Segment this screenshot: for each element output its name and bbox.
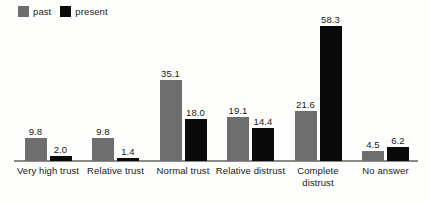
bar-group: 4.56.2 [362, 1, 410, 161]
bar-rect [387, 147, 409, 161]
bar-group: 19.114.4 [227, 1, 275, 161]
bar-group: 9.81.4 [92, 1, 140, 161]
bar-past[interactable]: 35.1 [160, 68, 182, 161]
bar-rect [50, 156, 72, 161]
bar-value-label: 2.0 [54, 144, 68, 155]
bar-present[interactable]: 18.0 [185, 107, 207, 161]
bar-value-label: 18.0 [186, 107, 205, 118]
bar-rect [185, 119, 207, 161]
bar-rect [160, 80, 182, 161]
bar-value-label: 21.6 [296, 99, 315, 110]
bar-rect [25, 138, 47, 161]
bar-rect [252, 128, 274, 161]
bar-past[interactable]: 9.8 [92, 126, 114, 161]
bar-past[interactable]: 21.6 [295, 99, 317, 161]
bar-rect [362, 151, 384, 161]
bar-group: 35.118.0 [159, 1, 207, 161]
bar-present[interactable]: 6.2 [387, 135, 409, 161]
bar-rect [227, 117, 249, 161]
bar-past[interactable]: 9.8 [25, 126, 47, 161]
bar-present[interactable]: 2.0 [50, 144, 72, 161]
bar-group: 21.658.3 [294, 1, 342, 161]
bar-rect [320, 26, 342, 161]
bar-rect [92, 138, 114, 161]
bar-value-label: 1.4 [121, 146, 135, 157]
bar-present[interactable]: 1.4 [117, 146, 139, 161]
bar-past[interactable]: 19.1 [227, 105, 249, 161]
x-axis-category-labels: Very high trustRelative trustNormal trus… [0, 165, 430, 202]
bar-value-label: 14.4 [254, 116, 273, 127]
bar-rect [117, 158, 139, 161]
bar-value-label: 6.2 [391, 135, 405, 146]
plot-area: 9.82.09.81.435.118.019.114.421.658.34.56… [0, 0, 430, 161]
bar-rect [295, 111, 317, 161]
bar-group: 9.82.0 [24, 1, 72, 161]
category-label: No answer [341, 165, 430, 177]
bar-value-label: 35.1 [161, 68, 180, 79]
x-axis-baseline [14, 160, 418, 162]
bar-value-label: 58.3 [321, 14, 340, 25]
bar-present[interactable]: 14.4 [252, 116, 274, 161]
bar-value-label: 4.5 [366, 139, 380, 150]
bar-value-label: 9.8 [96, 126, 110, 137]
bar-chart: past present 9.82.09.81.435.118.019.114.… [0, 0, 430, 202]
bar-past[interactable]: 4.5 [362, 139, 384, 161]
bar-present[interactable]: 58.3 [320, 14, 342, 161]
bar-value-label: 19.1 [229, 105, 248, 116]
bar-value-label: 9.8 [29, 126, 43, 137]
